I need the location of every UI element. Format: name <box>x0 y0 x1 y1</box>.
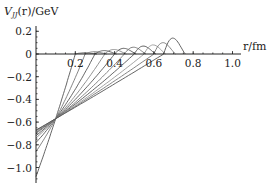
x-tick-label: 0.8 <box>185 57 202 69</box>
y-tick-label: −0.4 <box>7 93 33 105</box>
y-tick-label: −0.2 <box>7 71 33 83</box>
y-tick-label: 0 <box>25 48 32 60</box>
y-tick-label: −1.0 <box>7 162 33 174</box>
y-axis-label: VJJ(r)/GeV <box>4 5 59 19</box>
y-tick-label: 0.2 <box>15 25 32 37</box>
x-tick-label: 0.6 <box>146 57 163 69</box>
y-tick-label: −0.8 <box>7 139 33 151</box>
x-tick-label: 1.0 <box>224 57 241 69</box>
potential-chart: 0.20.40.60.81.00.20−0.2−0.4−0.6−0.8−1.0 … <box>0 0 270 191</box>
y-tick-label: −0.6 <box>7 116 33 128</box>
series-line-curve-9 <box>36 43 176 131</box>
y-label-rest: (r)/GeV <box>18 5 60 18</box>
x-tick-label: 0.4 <box>106 57 123 69</box>
x-tick-label: 0.2 <box>67 57 84 69</box>
series-line-curve-1 <box>36 53 97 177</box>
x-axis-label: r/fm <box>243 40 267 53</box>
